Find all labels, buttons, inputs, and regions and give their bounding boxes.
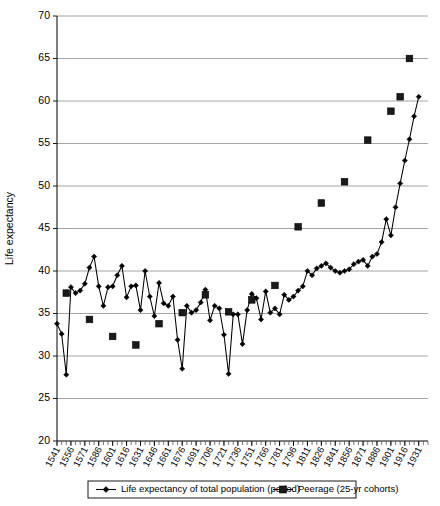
data-point-marker [393,205,398,210]
data-point-marker [318,200,325,207]
data-point-marker [156,280,161,285]
data-point-marker [170,294,175,299]
data-point-marker [388,108,395,115]
data-point-marker [86,316,93,323]
data-point-marker [180,366,185,371]
x-tick-label: 1931 [404,445,424,469]
y-tick-label: 40 [38,264,50,276]
data-point-marker [133,283,138,288]
data-point-marker [87,265,92,270]
data-point-marker [133,342,140,349]
data-point-marker [59,331,64,336]
data-point-marker [63,290,70,297]
y-tick-label: 35 [38,306,50,318]
data-point-marker [129,284,134,289]
data-point-marker [384,217,389,222]
data-point-marker [156,320,163,327]
data-point-marker [161,301,166,306]
data-point-marker [124,295,129,300]
data-point-marker [379,240,384,245]
data-point-marker [105,285,110,290]
life-expectancy-chart: 2025303540455055606570154115561571158616… [0,0,440,506]
data-point-marker [258,317,263,322]
data-point-marker [397,93,404,100]
data-point-marker [398,181,403,186]
data-point-marker [407,137,412,142]
y-tick-label: 50 [38,179,50,191]
data-point-marker [374,251,379,256]
data-point-marker [235,312,240,317]
data-point-marker [138,308,143,313]
y-tick-label: 65 [38,51,50,63]
data-point-marker [341,178,348,185]
data-point-marker [179,309,186,316]
data-point-marker [217,306,222,311]
data-point-marker [54,321,59,326]
data-point-marker [221,332,226,337]
legend-label-1: Peerage (25-yr cohorts) [298,483,398,494]
data-point-marker [207,318,212,323]
data-point-marker [272,282,279,289]
data-point-marker [202,292,209,299]
y-tick-label: 70 [38,9,50,21]
legend-label-0: Life expectancy of total population (per… [121,483,300,494]
y-tick-label: 30 [38,349,50,361]
data-point-marker [147,294,152,299]
data-point-marker [143,268,148,273]
data-point-marker [101,303,106,308]
y-axis-title: Life expectancy [3,191,15,265]
data-point-marker [248,297,255,304]
y-tick-label: 25 [38,391,50,403]
data-point-marker [64,372,69,377]
data-point-marker [198,300,203,305]
data-point-marker [212,303,217,308]
data-point-marker [92,254,97,259]
data-point-marker [226,371,231,376]
y-tick-label: 45 [38,221,50,233]
data-point-marker [364,137,371,144]
data-point-marker [115,273,120,278]
data-point-marker [416,94,421,99]
data-point-marker [370,254,375,259]
data-point-marker [319,263,324,268]
data-point-marker [245,308,250,313]
data-point-marker [175,337,180,342]
y-tick-label: 20 [38,434,50,446]
y-tick-label: 55 [38,136,50,148]
legend-marker-square [280,486,287,493]
data-point-marker [119,263,124,268]
data-point-marker [194,308,199,313]
data-point-marker [411,114,416,119]
data-point-marker [96,284,101,289]
data-point-marker [109,333,116,340]
y-tick-label: 60 [38,94,50,106]
data-point-marker [402,158,407,163]
data-point-marker [388,233,393,238]
data-point-marker [406,55,413,62]
data-point-marker [152,313,157,318]
data-point-marker [166,303,171,308]
data-point-marker [225,309,232,316]
data-point-marker [110,284,115,289]
chart-container: 2025303540455055606570154115561571158616… [0,0,440,506]
data-point-marker [240,342,245,347]
data-point-marker [263,289,268,294]
data-point-marker [295,224,302,231]
